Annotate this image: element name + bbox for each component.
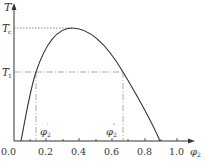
phi-double-prime-label: φ ″ 2	[106, 122, 117, 138]
phi-prime-label: φ ′ 2	[40, 122, 51, 138]
phase-diagram-chart: 0.0 0.2 0.4 0.6 0.8 1.0 T φ 2 T c T 1	[0, 0, 205, 165]
svg-text:1: 1	[8, 72, 12, 79]
x-tick-label: 0.6	[104, 146, 119, 157]
svg-text:2: 2	[113, 131, 117, 138]
svg-text:′: ′	[47, 122, 49, 129]
y-axis-label: T	[4, 1, 13, 14]
svg-text:″: ″	[113, 122, 116, 129]
svg-text:2: 2	[47, 131, 51, 138]
svg-text:φ: φ	[190, 146, 197, 157]
svg-text:φ: φ	[40, 126, 47, 137]
x-tick-label: 0.8	[137, 146, 152, 157]
temperature-curve	[21, 28, 160, 141]
x-tick-label: 0.0	[1, 146, 16, 157]
t1-label: T 1	[2, 66, 12, 79]
svg-text:c: c	[8, 28, 12, 35]
x-tick-label: 0.2	[38, 146, 53, 157]
svg-text:2: 2	[197, 151, 201, 158]
chart-canvas: 0.0 0.2 0.4 0.6 0.8 1.0 T φ 2 T c T 1	[0, 0, 205, 165]
tc-label: T c	[2, 22, 12, 35]
x-tick-label: 0.4	[71, 146, 86, 157]
svg-text:φ: φ	[106, 126, 113, 137]
y-axis-arrow-icon	[12, 3, 17, 10]
x-axis-arrow-icon	[188, 139, 195, 144]
x-axis-label: φ 2	[190, 146, 201, 158]
x-tick-label: 1.0	[169, 146, 184, 157]
